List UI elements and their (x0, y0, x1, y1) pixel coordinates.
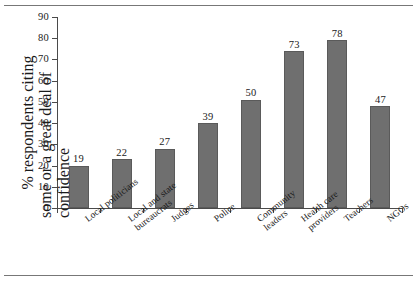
x-axis-category-label: Local and statebureaucrats (126, 216, 140, 233)
page-rule-top (4, 5, 413, 6)
bar-value-label: 50 (246, 88, 257, 99)
bar-value-label: 73 (289, 40, 300, 51)
x-axis-category-label: Health careproviders (299, 216, 313, 233)
bar[interactable] (284, 51, 304, 208)
y-axis-tick-label: 50 (38, 97, 49, 108)
bar-chart-figure: % respondents citing some or a great dea… (0, 0, 417, 282)
bar[interactable] (370, 106, 390, 208)
bar-value-label: 47 (375, 95, 386, 106)
bar[interactable] (241, 100, 261, 208)
y-axis-tick-label: 0 (44, 203, 49, 214)
bar-value-label: 19 (73, 154, 84, 165)
y-axis-tick-label: 10 (38, 182, 49, 193)
x-axis-category-label-line: leaders (262, 225, 269, 234)
x-axis-category-label: Judges (169, 216, 176, 225)
y-axis-tick-label: 70 (38, 54, 49, 65)
bar-slot: 73 (273, 17, 316, 208)
bar[interactable] (69, 166, 89, 208)
y-axis-tick-label: 80 (38, 33, 49, 44)
y-axis-title-line-1: % respondents citing (19, 55, 37, 189)
bar-value-label: 27 (159, 137, 170, 148)
plot-area: % respondents citing some or a great dea… (57, 10, 402, 210)
bar-slot: 27 (143, 17, 186, 208)
bar-value-label: 78 (332, 29, 343, 40)
x-axis-category-label: NGOs (385, 216, 392, 225)
x-axis-category-label: Teachers (342, 216, 349, 225)
x-axis-category-label-line: providers (305, 225, 312, 234)
bar-value-label: 22 (116, 148, 127, 159)
page-rule-bottom (4, 275, 413, 276)
bar[interactable] (198, 123, 218, 208)
x-axis-tick (57, 208, 58, 213)
bar-slot: 78 (316, 17, 359, 208)
y-axis-tick-label: 30 (38, 139, 49, 150)
y-axis-tick-label: 20 (38, 160, 49, 171)
bar-value-label: 39 (202, 112, 213, 123)
bar-slot: 50 (230, 17, 273, 208)
x-axis-category-label: Communityleaders (255, 216, 269, 233)
x-axis-category-label: Local politicians (83, 216, 90, 225)
x-axis-category-label: Police (212, 216, 219, 225)
bar-slot: 47 (359, 17, 402, 208)
y-axis-tick-label: 60 (38, 75, 49, 86)
y-axis-tick-label: 90 (38, 12, 49, 23)
bar-slot: 39 (186, 17, 229, 208)
x-axis-category-label-line: bureaucrats (133, 225, 140, 234)
bar[interactable] (327, 40, 347, 208)
bar-slot: 19 (57, 17, 100, 208)
bar-series: 1922273950737847 (57, 17, 402, 208)
y-axis-tick-label: 40 (38, 118, 49, 129)
